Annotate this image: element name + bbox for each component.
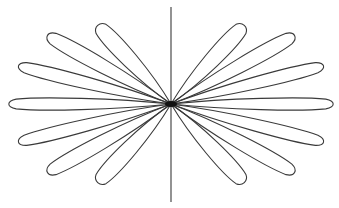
petal-2: [17, 60, 173, 111]
petal-11: [165, 20, 251, 110]
petal-8: [171, 98, 333, 110]
petal-1: [9, 98, 171, 110]
petal-5: [17, 98, 173, 149]
petal-14: [165, 98, 251, 188]
petal-12: [169, 98, 325, 149]
center-hub: [165, 101, 177, 107]
petal-9: [169, 60, 325, 111]
rose-curve-figure: [0, 0, 339, 208]
petal-7: [92, 98, 178, 188]
petal-4: [92, 20, 178, 110]
